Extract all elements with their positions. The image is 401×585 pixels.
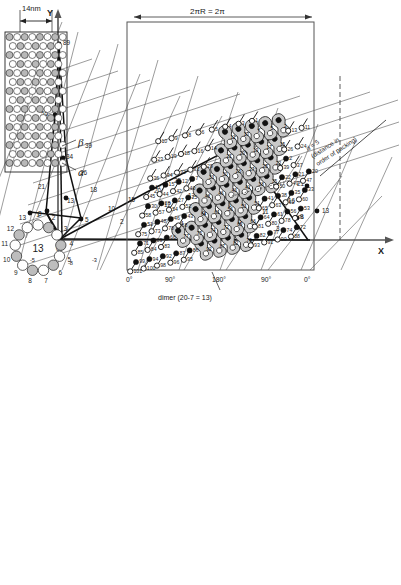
open-monomer-label: 84: [151, 246, 157, 252]
filled-monomer-label: 66: [170, 234, 176, 240]
open-monomer-label: 54: [172, 206, 178, 212]
microtubule-cylinder-panel: 14nm β α 13 12345678910111213: [0, 0, 124, 307]
dimer-inner-label: 48: [205, 194, 211, 199]
beta-subunit-circle: [47, 115, 54, 122]
beta-subunit-circle: [21, 34, 28, 41]
protofilament-circle: [18, 260, 28, 270]
protofilament-label: 3: [64, 225, 68, 232]
beta-subunit-label: β: [77, 136, 84, 148]
alpha-subunit-circle: [40, 97, 47, 104]
dimer-inner-label: 33: [209, 175, 215, 180]
filled-monomer-label: 28: [165, 200, 171, 206]
open-monomer-circle: [182, 133, 187, 138]
open-monomer-circle: [287, 181, 292, 186]
open-monomer-circle: [196, 130, 201, 135]
protofilament-label: 4: [69, 240, 73, 247]
filled-monomer-label: 72: [300, 224, 306, 230]
alpha-subunit-circle: [9, 43, 16, 50]
filled-monomer-circle: [176, 179, 181, 184]
open-monomer-circle: [165, 154, 170, 159]
beta-subunit-circle: [52, 142, 59, 149]
open-monomer-label: 18: [184, 150, 190, 156]
filled-monomer-label: 87: [179, 250, 185, 256]
dimer-inner-label: 69: [237, 222, 243, 227]
alpha-subunit-circle: [44, 88, 51, 95]
filled-monomer-label: 82: [260, 232, 266, 238]
filled-monomer-circle: [168, 216, 173, 221]
open-monomer-label: 11: [305, 124, 310, 130]
beta-subunit-circle: [6, 124, 13, 131]
open-monomer-circle: [279, 218, 284, 223]
open-monomer-label: 96: [174, 259, 180, 265]
open-monomer-label: 8: [188, 132, 191, 138]
filled-monomer-circle: [163, 182, 168, 187]
beta-subunit-circle: [47, 97, 54, 104]
alpha-subunit-circle: [55, 115, 62, 122]
dimer-inner-label: 17: [267, 145, 273, 150]
dimer-inner-label: 87: [220, 244, 226, 249]
beta-subunit-circle: [32, 79, 39, 86]
open-monomer-label: 5: [215, 126, 218, 132]
filled-monomer-circle: [302, 187, 307, 192]
filled-monomer-label: 56: [291, 208, 297, 214]
angle-tick-0b: 0°: [304, 276, 311, 283]
dimer-inner-label: 19: [253, 148, 259, 153]
filled-monomer-label: 17: [155, 184, 161, 190]
filled-monomer-label: 7: [195, 175, 198, 181]
beta-subunit-circle: [52, 160, 59, 167]
open-monomer-circle: [152, 157, 157, 162]
filled-monomer-label: 77: [273, 229, 279, 235]
alpha-subunit-circle: [25, 97, 32, 104]
dimer-inner-label: 30: [222, 172, 228, 177]
filled-monomer-circle: [271, 212, 276, 217]
open-monomer-label: 19: [171, 153, 177, 159]
dimer-inner-label: 20: [240, 151, 246, 156]
dimer-inner-label: 5: [271, 126, 274, 131]
filled-monomer-circle: [137, 241, 142, 246]
protofilament-label: 5: [67, 256, 71, 263]
dimer-inner-label: 75: [197, 231, 203, 236]
beta-subunit-circle: [36, 142, 43, 149]
beta-subunit-circle: [21, 142, 28, 149]
filled-monomer-label: 38: [281, 192, 287, 198]
beta-subunit-circle: [36, 34, 43, 41]
open-monomer-label: 1: [255, 117, 258, 123]
open-monomer-circle: [205, 146, 210, 151]
open-monomer-circle: [153, 210, 158, 215]
alpha-subunit-circle: [25, 115, 32, 122]
beta-subunit-circle: [47, 79, 54, 86]
open-monomer-circle: [188, 167, 193, 172]
beta-subunit-circle: [47, 43, 54, 50]
open-monomer-circle: [145, 247, 150, 252]
angle-tick-0a: 0°: [126, 276, 133, 283]
filled-monomer-circle: [187, 248, 192, 253]
filled-monomer-circle: [174, 251, 179, 256]
beta-subunit-circle: [52, 88, 59, 95]
open-monomer-label: 49: [293, 180, 299, 186]
filled-monomer-label: 61: [277, 211, 283, 217]
dimer-inner-label: 79: [247, 238, 253, 243]
angle-tick-90a: 90°: [165, 276, 176, 283]
protofilament-circle: [33, 220, 43, 230]
protofilament-circle: [54, 251, 64, 261]
beta-subunit-circle: [6, 34, 13, 41]
alpha-subunit-circle: [29, 70, 36, 77]
beta-subunit-circle: [32, 115, 39, 122]
filled-monomer-circle: [147, 257, 152, 262]
dimer-inner-label: 38: [259, 182, 265, 187]
filled-monomer-label: 99: [139, 258, 145, 264]
beta-subunit-circle: [47, 133, 54, 140]
beta-subunit-circle: [17, 151, 24, 158]
open-monomer-circle: [174, 170, 179, 175]
alpha-subunit-circle: [29, 34, 36, 41]
protofilament-circle: [10, 240, 20, 250]
filled-monomer-label: 48: [161, 218, 167, 224]
open-monomer-circle: [168, 260, 173, 265]
alpha-subunit-circle: [44, 106, 51, 113]
protofilament-label: 8: [28, 277, 32, 284]
filled-monomer-label: 53: [304, 205, 310, 211]
filled-monomer-circle: [279, 175, 284, 180]
open-monomer-circle: [149, 229, 154, 234]
alpha-subunit-circle: [14, 124, 21, 131]
filled-monomer-circle: [267, 230, 272, 235]
